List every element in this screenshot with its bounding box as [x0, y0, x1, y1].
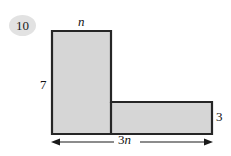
l-shape-figure [0, 0, 231, 156]
l-shape-polygon [52, 31, 212, 134]
arrow-head-right [204, 138, 213, 145]
bottom-width-label: 3n [118, 133, 131, 146]
arrow-head-left [51, 138, 60, 145]
bottom-label-variable: n [125, 132, 132, 147]
right-side-label: 3 [216, 110, 223, 123]
top-side-label: n [78, 15, 85, 28]
bottom-width-arrow [51, 135, 213, 149]
figure-page: 10 n 7 3 3n [0, 0, 231, 156]
left-side-label: 7 [40, 78, 47, 91]
